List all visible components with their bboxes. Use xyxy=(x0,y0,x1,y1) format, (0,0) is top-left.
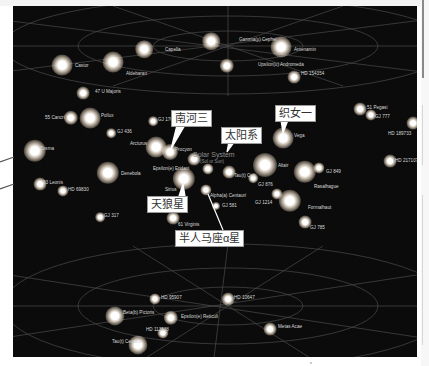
star-castor xyxy=(52,55,73,76)
star-label: GJ 876 xyxy=(258,183,273,188)
star-label: GJ 785 xyxy=(310,226,325,231)
star-label: Antenamin xyxy=(294,48,316,53)
star-gamma-y-cephei xyxy=(202,32,220,50)
callout-vega: 织女一 xyxy=(275,105,316,122)
star-label: 83 Leonis xyxy=(43,181,63,186)
star-label: GJ 849 xyxy=(326,170,341,175)
star-label: HD 95907 xyxy=(161,296,182,301)
star-gj-581 xyxy=(212,202,220,210)
star-label: Epsilon(e) Eridani xyxy=(153,167,189,172)
star-label: HD 217107 xyxy=(395,159,417,164)
star-vega xyxy=(273,128,294,149)
right-strip-line xyxy=(422,195,423,345)
star-aldebaran xyxy=(103,52,124,73)
right-side-strip xyxy=(421,0,429,366)
star-label: 51 Pegasi xyxy=(367,106,387,111)
star-label: Metas Acae xyxy=(278,325,302,330)
star-label: Tau(t) Centauri xyxy=(112,340,142,345)
star-label: GJ 581 xyxy=(222,204,237,209)
star-label: Pollux xyxy=(101,114,114,119)
star-label: Altair xyxy=(278,164,288,169)
star-label: Vega xyxy=(294,134,304,139)
star-label: HD 69830 xyxy=(68,188,89,193)
star-label: Formalhaut xyxy=(308,206,331,211)
star-label: Rasalhague xyxy=(314,185,339,190)
star-metas-acae xyxy=(264,323,277,336)
star-label: Castor xyxy=(75,64,89,69)
star-label: HD 10647 xyxy=(234,296,255,301)
star-47-u-majoris xyxy=(77,87,90,100)
star-label: Beta(b) Pictoris xyxy=(123,311,154,316)
star-label: Epsilon(e) Reticuli xyxy=(181,315,218,320)
right-strip-line xyxy=(422,105,423,165)
star-hd-10647 xyxy=(222,293,235,306)
star-gj-436 xyxy=(106,128,116,138)
star-label: Zosma xyxy=(40,147,54,152)
star-label: 47 U Majoris xyxy=(95,90,121,95)
star-label: 55 Cancri xyxy=(45,116,65,121)
callout-alpha-centauri: 半人马座α星 xyxy=(175,230,244,247)
solar-system-sublabel: (Sol or Sun) xyxy=(200,160,224,165)
star-label: HD 154354 xyxy=(301,72,324,77)
star-label: Procyon xyxy=(175,148,192,153)
star-label: Denebola xyxy=(121,172,141,177)
solar-system-label: Solar System xyxy=(193,151,235,158)
star-label: GJ 436 xyxy=(117,130,132,135)
right-strip-divider xyxy=(422,0,424,78)
star-label: 61 Virginis xyxy=(178,223,199,228)
coordinate-grid xyxy=(13,6,417,357)
star-hd-154354 xyxy=(288,71,301,84)
star-label: HD 189733 xyxy=(388,132,411,137)
star-label: Alpha(a) Centauri xyxy=(210,194,246,199)
star-label: Gamma(y) Cephei xyxy=(239,38,277,43)
star-altair xyxy=(253,153,277,177)
callout-solar-system: 太阳系 xyxy=(221,127,262,144)
star-pollux xyxy=(80,108,101,129)
star-label: Aldebaran xyxy=(126,72,147,77)
star-hd-189733 xyxy=(407,117,417,130)
star-label: HD 113538 xyxy=(146,328,169,333)
callout-procyon: 南河三 xyxy=(171,110,212,127)
star-label: Tau(t) Ceti xyxy=(234,174,255,179)
star-map-panel: CapellaCastorAldebaranGamma(y) CepheiAnt… xyxy=(13,6,417,357)
star-label: GJ 317 xyxy=(104,214,119,219)
decorative-dot xyxy=(310,362,312,364)
star-label: GJ 777 xyxy=(375,115,390,120)
star-label: Sirius xyxy=(165,188,177,193)
star-capella xyxy=(135,40,153,58)
star-label: GJ 1214 xyxy=(255,201,272,206)
star-label: Upsilon(u) Andromeda xyxy=(258,63,304,68)
callout-sirius: 天狼星 xyxy=(147,196,188,213)
star-gj-176 xyxy=(148,116,158,126)
star-label: Arcturus xyxy=(130,142,147,147)
star-label: Capella xyxy=(165,48,181,53)
